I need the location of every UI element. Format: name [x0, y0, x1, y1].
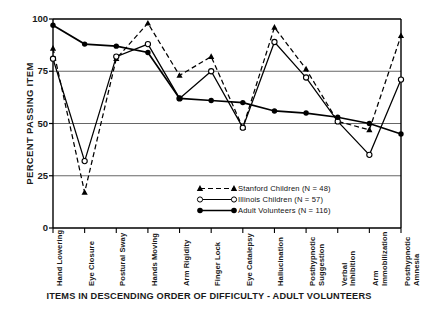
y-tick-50: 50: [22, 119, 48, 129]
x-tick-label-eye-catalepsy: Eye Catalepsy: [246, 233, 254, 286]
x-tick-label-eye-closure: Eye Closure: [88, 241, 96, 286]
legend-label-illinois: Illinois Children (N = 57): [238, 195, 323, 204]
x-tick-label-finger-lock: Finger Lock: [214, 242, 222, 286]
y-axis-tick-labels: 100 75 50 25 0: [18, 0, 48, 312]
legend-symbol-illinois-open-circle: [196, 194, 238, 205]
legend-symbol-adult-filled-circle: [196, 205, 238, 216]
x-tick-label-hand-lowering: Hand Lowering: [56, 230, 64, 286]
x-tick-label-arm-rigidity: Arm Rigidity: [183, 240, 191, 286]
legend-symbol-stanford-dashed-triangle: [196, 183, 238, 194]
legend-item-adult: Adult Volunteers (N = 116): [196, 205, 331, 216]
legend-item-stanford: Stanford Children (N = 48): [196, 183, 331, 194]
chart-legend: Stanford Children (N = 48) Illinois Chil…: [196, 183, 331, 216]
y-tick-75: 75: [22, 66, 48, 76]
x-tick-label-hands-moving: Hands Moving: [151, 233, 159, 286]
x-tick-label-hallucination: Hallucination: [277, 237, 285, 286]
legend-label-adult: Adult Volunteers (N = 116): [238, 206, 331, 215]
x-tick-label-verbal-inhibition: Inhibition: [349, 251, 357, 286]
x-tick-label-postural-sway: Postural Sway: [119, 233, 127, 286]
y-tick-0: 0: [22, 223, 48, 233]
legend-label-stanford: Stanford Children (N = 48): [238, 184, 331, 193]
x-axis-title: ITEMS IN DESCENDING ORDER OF DIFFICULTY …: [0, 291, 418, 301]
legend-item-illinois: Illinois Children (N = 57): [196, 194, 331, 205]
y-tick-25: 25: [22, 171, 48, 181]
x-tick-label-posthypnotic-suggestion: Suggestion: [318, 244, 326, 286]
x-tick-label-arm-immobilization: Immobilization: [381, 231, 389, 286]
y-tick-100: 100: [22, 14, 48, 24]
x-tick-label-posthypnotic-amnesia: Amnesia: [413, 254, 421, 286]
